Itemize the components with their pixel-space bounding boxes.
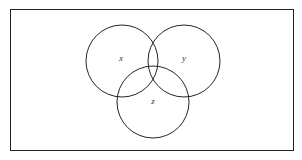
venn-circles-group <box>0 0 302 160</box>
label-x: x <box>119 54 123 63</box>
label-z: z <box>151 97 155 106</box>
venn-diagram-figure: x y z <box>0 0 302 160</box>
label-y: y <box>182 54 186 63</box>
